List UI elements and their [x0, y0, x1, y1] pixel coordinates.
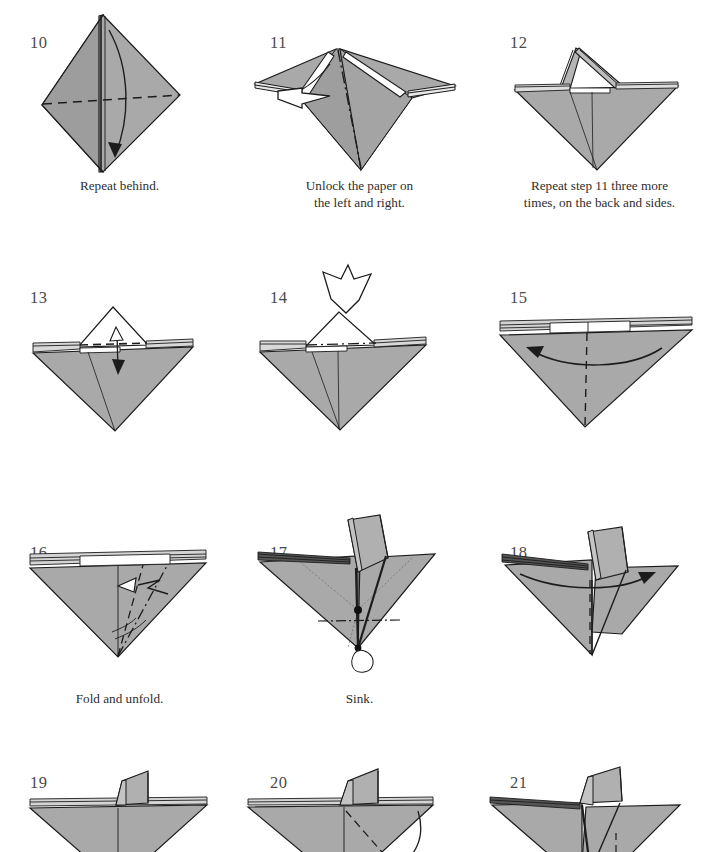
paper-shape: [30, 550, 206, 657]
caption-line: Unlock the paper on: [240, 178, 479, 195]
step-panel-21: 21: [480, 755, 719, 852]
paper-shape: [500, 317, 692, 427]
step-panel-16: 16: [0, 510, 239, 755]
step-figure-18: [480, 510, 719, 690]
step-figure-19: [0, 755, 239, 852]
step-figure-11: [240, 0, 479, 180]
step-figure-12: [480, 0, 719, 180]
step-panel-19: 19: [0, 755, 239, 852]
step-figure-15: [480, 255, 719, 435]
upright-flap: [116, 771, 148, 805]
paper-shape: [258, 515, 435, 648]
step-panel-13: 13: [0, 255, 239, 510]
step-panel-10: 10: [0, 0, 239, 255]
peak-tent: [559, 48, 623, 89]
step-figure-17: [240, 510, 479, 690]
paper-shape: [248, 769, 433, 852]
paper-shape: [33, 307, 193, 431]
caption-line: the left and right.: [240, 195, 479, 212]
step-panel-12: 12: [480, 0, 719, 255]
step-figure-13: [0, 255, 239, 435]
loop-arrow-around-tip: [352, 650, 373, 672]
step-caption-11: Unlock the paper on the left and right.: [240, 178, 479, 211]
step-panel-20: 20: [240, 755, 479, 852]
paper-shape: [490, 767, 680, 852]
hollow-sink-arrow-down: [323, 265, 371, 313]
step-panel-15: 15: [480, 255, 719, 510]
step-figure-16: [0, 510, 239, 690]
step-figure-14: [240, 255, 479, 435]
step-panel-11: 11: [240, 0, 479, 255]
step-caption-12: Repeat step 11 three more times, on the …: [480, 178, 719, 211]
step-panel-18: 18: [480, 510, 719, 755]
caption-line: Repeat behind.: [0, 178, 239, 195]
step-figure-21: [480, 755, 719, 852]
caption-line: times, on the back and sides.: [480, 195, 719, 212]
paper-shape: [30, 771, 207, 852]
upright-flap: [580, 767, 622, 805]
raised-flap: [588, 527, 628, 580]
step-figure-20: [240, 755, 479, 852]
step-panel-17: 17: [240, 510, 479, 755]
paper-shape: [502, 527, 678, 655]
diagram-grid: 10: [0, 0, 719, 852]
step-panel-14: 14: [240, 255, 479, 510]
step-figure-10: [0, 0, 239, 180]
paper-shape: [260, 312, 426, 430]
paper-shape: [255, 49, 455, 170]
origami-instruction-page: 10: [0, 0, 719, 852]
upright-flap: [340, 769, 378, 805]
paper-shape: [515, 48, 678, 170]
step-caption-10: Repeat behind.: [0, 178, 239, 195]
caption-line: Repeat step 11 three more: [480, 178, 719, 195]
